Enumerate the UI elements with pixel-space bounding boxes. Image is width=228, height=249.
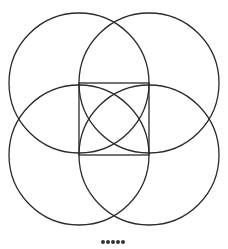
dot-4[interactable]: [116, 240, 120, 244]
dot-5[interactable]: [121, 240, 125, 244]
dot-3[interactable]: [111, 240, 115, 244]
circles-square-diagram: [0, 0, 228, 249]
dot-2[interactable]: [106, 240, 110, 244]
dot-1[interactable]: [101, 240, 105, 244]
pagination-dots: [101, 240, 125, 244]
